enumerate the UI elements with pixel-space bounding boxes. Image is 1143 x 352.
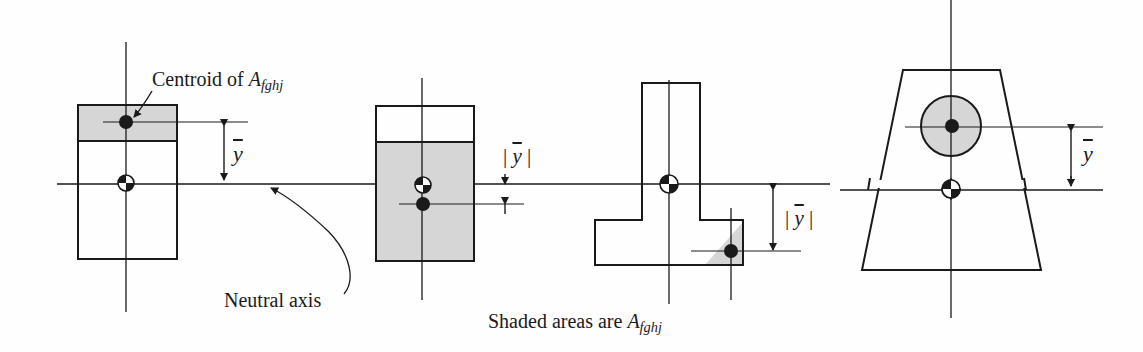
area-symbol: A xyxy=(249,68,261,90)
ybar-symbol: y xyxy=(1083,141,1093,166)
caption-area-symbol: A xyxy=(627,310,639,332)
section-centroid-icon-redraw xyxy=(942,180,960,198)
abs-ybar-label-panel-3: | y | xyxy=(785,208,813,229)
abs-close: | xyxy=(527,144,531,168)
caption-text: Shaded areas are xyxy=(488,310,627,332)
panel-2-rectangle xyxy=(376,78,524,300)
centroid-label-text: Centroid of xyxy=(152,68,249,90)
section-centroid-icon xyxy=(415,177,431,193)
neutral-axis-leader-arrow xyxy=(271,188,350,294)
ybar-symbol: y xyxy=(512,144,521,168)
area-centroid-dot xyxy=(416,197,430,211)
neutral-axis-label: Neutral axis xyxy=(224,290,321,310)
abs-open: | xyxy=(785,206,789,230)
figure-stage: Centroid of Afghj y | y | | y | y Neutra… xyxy=(0,0,1143,352)
ybar-label-panel-4: y xyxy=(1083,143,1093,165)
ybar-symbol: y xyxy=(233,141,243,166)
abs-open: | xyxy=(503,144,507,168)
panel-3-tee xyxy=(595,80,801,304)
ybar-label-panel-1: y xyxy=(233,143,243,165)
panel-4-trapezoid xyxy=(840,0,1103,318)
centroid-label: Centroid of Afghj xyxy=(152,69,283,89)
abs-ybar-label-panel-2: | y | xyxy=(503,146,531,167)
area-centroid-dot xyxy=(945,119,959,133)
abs-close: | xyxy=(809,206,813,230)
area-centroid-dot xyxy=(724,244,738,258)
section-centroid-icon xyxy=(660,175,678,193)
section-centroid-icon xyxy=(118,175,134,191)
area-subscript: fghj xyxy=(261,77,283,93)
shaded-area xyxy=(705,222,743,265)
caption-area-subscript: fghj xyxy=(640,319,662,335)
area-centroid-dot xyxy=(119,115,133,129)
ybar-symbol: y xyxy=(794,206,803,230)
figure-caption: Shaded areas are Afghj xyxy=(488,311,662,331)
diagram-canvas xyxy=(0,0,1143,352)
